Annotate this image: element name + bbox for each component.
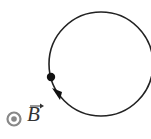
charged-particle	[47, 73, 55, 81]
field-out-of-page-icon	[8, 113, 21, 126]
field-label: B	[27, 104, 40, 125]
direction-arrow-icon	[52, 88, 62, 100]
circular-path	[49, 12, 151, 116]
vector-arrow-head	[40, 104, 44, 109]
trajectory-diagram	[0, 0, 151, 139]
